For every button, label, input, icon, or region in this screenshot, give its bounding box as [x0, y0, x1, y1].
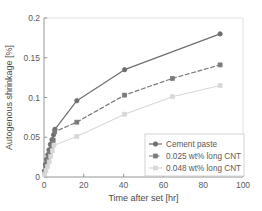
- y-tick-label: 0.05: [23, 132, 40, 142]
- data-point-marker: [51, 138, 55, 142]
- y-tick-label: 0.15: [23, 53, 40, 63]
- x-tick-label: 0: [42, 180, 47, 190]
- data-point-marker: [47, 160, 51, 164]
- legend-label: 0.025 wt% long CNT: [166, 152, 241, 161]
- legend-marker-swatch: [154, 154, 158, 158]
- data-point-marker: [218, 84, 222, 88]
- legend-label: Cement paste: [166, 140, 217, 149]
- x-tick-label: 100: [236, 180, 250, 190]
- data-point-marker: [170, 76, 174, 80]
- data-point-marker: [218, 32, 222, 36]
- data-point-marker: [75, 98, 79, 102]
- chart-container: 020406080100 00.050.10.150.2 Time after …: [0, 0, 262, 211]
- autogenous-shrinkage-line-chart: 020406080100 00.050.10.150.2 Time after …: [0, 0, 262, 211]
- y-tick-label: 0.1: [28, 93, 40, 103]
- data-point-marker: [52, 143, 56, 147]
- data-point-marker: [122, 67, 126, 71]
- legend-marker-swatch: [154, 166, 158, 170]
- data-point-marker: [170, 95, 174, 99]
- data-point-marker: [75, 120, 79, 124]
- data-point-marker: [49, 154, 53, 158]
- y-tick-label: 0.2: [28, 13, 40, 23]
- y-axis-title: Autogenous shrinkage [%]: [4, 45, 14, 150]
- chart-legend: Cement paste0.025 wt% long CNT0.048 wt% …: [145, 134, 244, 176]
- data-point-marker: [123, 93, 127, 97]
- data-point-marker: [75, 134, 79, 138]
- legend-label: 0.048 wt% long CNT: [166, 164, 241, 173]
- data-point-marker: [123, 112, 127, 116]
- x-axis-title: Time after set [hr]: [108, 193, 178, 203]
- data-point-marker: [53, 130, 57, 134]
- x-tick-label: 40: [119, 180, 129, 190]
- x-tick-label: 20: [79, 180, 89, 190]
- x-tick-label: 60: [159, 180, 169, 190]
- x-tick-label: 80: [198, 180, 208, 190]
- y-tick-label: 0: [35, 172, 40, 182]
- data-point-marker: [46, 165, 50, 169]
- data-point-marker: [44, 169, 48, 173]
- data-point-marker: [43, 173, 47, 177]
- data-point-marker: [50, 149, 54, 153]
- legend-marker-swatch: [153, 142, 157, 146]
- data-point-marker: [218, 63, 222, 67]
